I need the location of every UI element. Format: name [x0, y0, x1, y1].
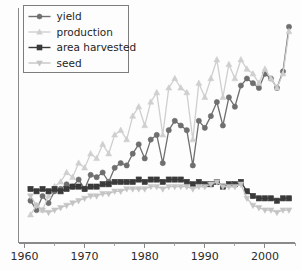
- data-point-marker: [244, 76, 249, 81]
- data-point-marker: [184, 179, 189, 184]
- data-point-marker: [160, 179, 165, 184]
- data-point-marker: [250, 193, 255, 198]
- data-point-marker: [136, 142, 141, 147]
- data-point-marker: [64, 186, 69, 191]
- data-point-marker: [268, 196, 273, 201]
- data-point-marker: [136, 103, 142, 108]
- data-point-marker: [124, 163, 129, 168]
- legend-item-label: production: [57, 26, 113, 38]
- data-point-marker: [142, 156, 147, 161]
- data-point-marker: [160, 187, 166, 192]
- data-point-marker: [178, 177, 183, 182]
- data-point-marker: [100, 170, 105, 175]
- data-point-marker: [226, 95, 231, 100]
- data-point-marker: [112, 165, 117, 170]
- data-point-marker: [37, 14, 42, 19]
- data-point-marker: [220, 94, 226, 99]
- data-point-marker: [238, 83, 243, 88]
- data-point-marker: [166, 128, 171, 133]
- data-point-marker: [160, 161, 165, 166]
- data-point-marker: [262, 196, 267, 201]
- x-axis-tick-label: 1970: [71, 250, 99, 263]
- data-point-marker: [58, 189, 63, 194]
- data-point-marker: [280, 196, 285, 201]
- data-point-marker: [76, 160, 82, 165]
- data-point-marker: [190, 136, 196, 141]
- data-point-marker: [220, 123, 225, 128]
- data-point-marker: [202, 94, 208, 99]
- x-axis-tick-label: 2000: [251, 250, 279, 263]
- data-point-marker: [250, 81, 255, 86]
- legend-item-label: yield: [57, 10, 82, 22]
- data-point-marker: [100, 141, 106, 146]
- data-point-marker: [196, 179, 201, 184]
- data-point-marker: [82, 186, 87, 191]
- data-point-marker: [172, 177, 177, 182]
- data-point-marker: [94, 184, 99, 189]
- data-point-marker: [88, 184, 93, 189]
- data-point-marker: [37, 45, 42, 50]
- data-point-marker: [46, 210, 52, 215]
- data-point-marker: [190, 163, 195, 168]
- data-point-marker: [184, 128, 189, 133]
- data-point-marker: [286, 28, 292, 33]
- data-point-marker: [262, 66, 268, 71]
- data-point-marker: [214, 99, 219, 104]
- data-point-marker: [154, 132, 159, 137]
- data-point-marker: [256, 85, 261, 90]
- data-point-marker: [40, 186, 45, 191]
- data-point-marker: [274, 198, 279, 203]
- data-point-marker: [160, 132, 166, 137]
- data-point-marker: [256, 196, 261, 201]
- line-chart: 19601970198019902000 yieldproductionarea…: [0, 0, 301, 270]
- series-area-harvested: [28, 177, 292, 203]
- data-point-marker: [208, 75, 214, 80]
- data-point-marker: [232, 104, 237, 109]
- data-point-marker: [64, 169, 70, 174]
- data-point-marker: [166, 177, 171, 182]
- data-point-marker: [274, 210, 280, 215]
- data-point-marker: [214, 56, 220, 61]
- data-point-marker: [136, 177, 141, 182]
- data-point-marker: [112, 179, 117, 184]
- data-point-marker: [172, 118, 177, 123]
- data-point-marker: [190, 182, 195, 187]
- data-point-marker: [130, 179, 135, 184]
- data-point-marker: [286, 196, 291, 201]
- data-point-marker: [226, 61, 232, 66]
- data-point-marker: [118, 161, 123, 166]
- data-point-marker: [70, 184, 75, 189]
- data-point-marker: [148, 177, 153, 182]
- data-point-marker: [28, 186, 33, 191]
- legend: yieldproductionarea harvestedseed: [24, 6, 137, 73]
- x-axis-tick-label: 1980: [131, 250, 159, 263]
- data-point-marker: [190, 187, 196, 192]
- data-point-marker: [142, 122, 148, 127]
- data-point-marker: [232, 75, 238, 80]
- legend-item-label: seed: [57, 57, 82, 69]
- data-point-marker: [46, 189, 51, 194]
- data-point-marker: [106, 182, 111, 187]
- x-axis-tick-label: 1990: [191, 250, 219, 263]
- data-point-marker: [154, 89, 160, 94]
- data-point-marker: [196, 118, 201, 123]
- data-point-marker: [94, 175, 99, 180]
- data-point-marker: [76, 177, 81, 182]
- data-point-marker: [238, 56, 244, 61]
- data-point-marker: [118, 127, 124, 132]
- legend-item-label: area harvested: [57, 41, 137, 53]
- chart-canvas: 19601970198019902000 yieldproductionarea…: [0, 0, 301, 270]
- data-point-marker: [88, 150, 94, 155]
- data-point-marker: [178, 123, 183, 128]
- data-point-marker: [118, 179, 123, 184]
- data-point-marker: [40, 193, 45, 198]
- data-point-marker: [34, 189, 39, 194]
- data-point-marker: [208, 114, 213, 119]
- data-point-marker: [52, 186, 57, 191]
- data-point-marker: [148, 137, 153, 142]
- data-point-marker: [130, 151, 135, 156]
- data-point-marker: [154, 177, 159, 182]
- data-point-marker: [202, 125, 207, 130]
- x-axis-tick-label: 1960: [11, 250, 39, 263]
- data-point-marker: [142, 179, 147, 184]
